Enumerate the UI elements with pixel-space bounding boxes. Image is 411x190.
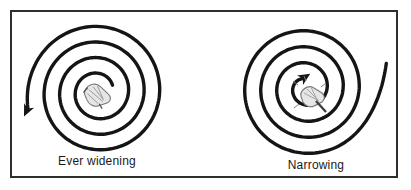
narrowing-spiral [245, 31, 387, 154]
widening-spiral [24, 26, 160, 149]
spiral-diagram: Ever widening Narrowing [0, 0, 411, 190]
left-spiral-label: Ever widening [58, 154, 136, 168]
right-spiral-label: Narrowing [288, 158, 345, 172]
sketch-figure-icon [81, 82, 113, 110]
